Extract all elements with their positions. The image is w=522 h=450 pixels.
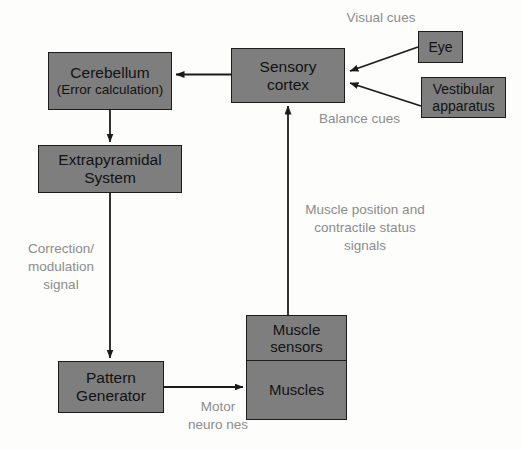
node-muscle-stack: Muscle sensors Muscles (246, 315, 347, 420)
node-vestibular-apparatus[interactable]: Vestibular apparatus (421, 77, 506, 118)
edge-label-correction-signal-line1: Correction/ (18, 240, 104, 258)
edge-label-correction-signal-line2: modulation (18, 258, 104, 276)
node-muscles-label: Muscles (269, 381, 324, 398)
edge-label-muscle-feedback-line2: contractile status (300, 219, 430, 237)
edge-label-visual-cues-text: Visual cues (347, 10, 416, 25)
node-muscle-sensors[interactable]: Muscle sensors (247, 316, 346, 361)
node-cerebellum-label-secondary: (Error calculation) (57, 82, 164, 98)
edge-label-muscle-feedback-line1: Muscle position and (300, 201, 430, 219)
node-sensory-cortex-label-secondary: cortex (267, 76, 309, 94)
node-pattern-generator-label-primary: Pattern (86, 369, 136, 387)
edge-label-motor-neurones-line2: neuro nes (180, 416, 256, 434)
node-sensory-cortex-label-primary: Sensory (260, 58, 317, 76)
node-muscle-sensors-label-primary: Muscle (273, 321, 321, 338)
edge-label-correction-signal-line3: signal (18, 276, 104, 294)
node-pattern-generator[interactable]: Pattern Generator (58, 361, 164, 413)
motor-control-flow-diagram: Cerebellum (Error calculation) Extrapyra… (0, 0, 522, 450)
edge-vestibular-to-sensory-cortex (350, 83, 421, 106)
edge-label-correction-signal: Correction/ modulation signal (18, 240, 104, 293)
edge-eye-to-sensory-cortex (350, 47, 418, 71)
node-muscles[interactable]: Muscles (247, 361, 346, 419)
edge-label-visual-cues: Visual cues (337, 9, 425, 27)
node-extrapyramidal-label-primary: Extrapyramidal (58, 151, 161, 169)
node-vestibular-label-secondary: apparatus (432, 98, 494, 114)
node-eye[interactable]: Eye (418, 31, 463, 63)
node-muscle-sensors-label-secondary: sensors (270, 338, 323, 355)
edge-label-balance-cues: Balance cues (312, 110, 407, 128)
edge-label-balance-cues-text: Balance cues (319, 111, 400, 126)
node-extrapyramidal-label-secondary: System (84, 169, 136, 187)
edge-label-muscle-feedback: Muscle position and contractile status s… (300, 201, 430, 254)
node-vestibular-label-primary: Vestibular (433, 81, 494, 97)
node-extrapyramidal-system[interactable]: Extrapyramidal System (38, 145, 182, 193)
edge-label-motor-neurones-line1: Motor (180, 398, 256, 416)
node-pattern-generator-label-secondary: Generator (76, 387, 146, 405)
node-eye-label: Eye (428, 39, 452, 55)
node-cerebellum-label-primary: Cerebellum (70, 64, 149, 82)
edge-label-muscle-feedback-line3: signals (300, 237, 430, 255)
node-sensory-cortex[interactable]: Sensory cortex (231, 48, 345, 103)
edge-label-motor-neurones: Motor neuro nes (180, 398, 256, 434)
node-cerebellum[interactable]: Cerebellum (Error calculation) (48, 52, 172, 110)
